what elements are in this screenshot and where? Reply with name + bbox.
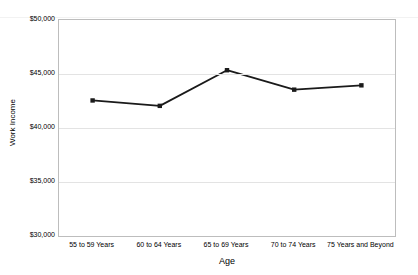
data-point-marker [90,98,94,102]
x-axis-tick-label: 65 to 69 Years [204,241,249,248]
x-axis-tick-label: 60 to 64 Years [136,241,181,248]
data-point-marker [158,104,162,108]
gridline [59,74,395,75]
series-line [93,70,362,106]
work-income-by-age-line-chart: $30,000$35,000$40,000$45,000$50,000 55 t… [0,0,418,275]
gridline [59,128,395,129]
x-axis-tick-label: 55 to 59 Years [69,241,114,248]
y-axis-tick-label: $35,000 [3,177,55,184]
x-axis-tick-label-group: 55 to 59 Years60 to 64 Years65 to 69 Yea… [58,241,396,253]
y-axis-tick-label: $30,000 [3,231,55,238]
y-axis-title: Work Income [8,83,17,163]
x-axis-tick-label: 75 Years and Beyond [327,241,394,248]
y-axis-tick-label: $50,000 [3,15,55,22]
x-axis-tick-label: 70 to 74 Years [271,241,316,248]
data-point-marker [225,68,229,72]
y-axis-tick-label: $45,000 [3,69,55,76]
gridline [59,182,395,183]
data-point-marker [359,83,363,87]
top-divider-rule [0,17,418,18]
x-axis-title: Age [58,256,396,266]
plot-area [58,19,396,237]
data-point-marker [292,87,296,91]
